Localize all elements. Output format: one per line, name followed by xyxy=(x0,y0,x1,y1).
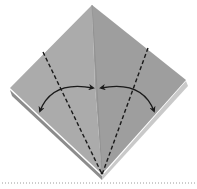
paper-left-face xyxy=(10,5,102,174)
bottom-point-marker xyxy=(101,172,104,175)
origami-diagram xyxy=(0,0,197,189)
paper-right-face xyxy=(92,5,186,174)
origami-illustration xyxy=(0,0,197,189)
